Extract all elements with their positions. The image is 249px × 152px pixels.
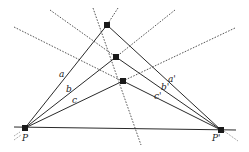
label-P: P [21, 133, 29, 143]
label-P-prime: P' [211, 133, 221, 143]
base-line [14, 127, 236, 130]
line-a [25, 25, 107, 128]
dashed-line-right-short [116, 10, 175, 57]
hatch-pprime [224, 131, 238, 141]
point-P [22, 125, 28, 131]
label-c-prime: c' [154, 91, 162, 101]
label-b-prime: b' [161, 82, 169, 92]
projective-diagram: a b c a' b' c' P P' [0, 0, 249, 152]
label-b: b [66, 84, 72, 94]
label-c: c [72, 95, 77, 105]
label-a: a [59, 69, 64, 79]
hatch-p-1 [14, 132, 20, 136]
hatch-p-2 [14, 135, 21, 140]
point-middle [113, 54, 119, 60]
point-top [104, 22, 110, 28]
line-c-prime [123, 81, 221, 130]
dashed-line-left-long [14, 27, 122, 81]
point-lower [120, 78, 126, 84]
dashed-line-vertical [93, 8, 141, 145]
line-a-prime [107, 25, 221, 130]
